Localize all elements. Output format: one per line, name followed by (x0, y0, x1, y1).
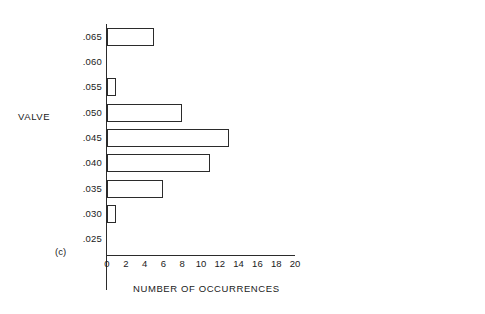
bar-065 (107, 28, 295, 46)
bar-025 (107, 230, 295, 248)
bar-rect (107, 180, 163, 198)
x-tick-label: 14 (233, 258, 244, 270)
bar-055 (107, 78, 295, 96)
x-tick-label: 6 (161, 258, 166, 270)
x-tick-label: 20 (290, 258, 301, 270)
bar-rect (107, 129, 229, 147)
y-tick-label: .050 (66, 108, 102, 118)
bar-045 (107, 129, 295, 147)
y-axis-tick-labels: .065.060.055.050.045.040.035.030.025 (62, 24, 102, 252)
y-tick-label: .045 (66, 133, 102, 143)
y-axis-title: VALVE (18, 111, 50, 122)
y-tick-label: .040 (66, 158, 102, 168)
bar-rect (107, 28, 154, 46)
chart-figure: VALVE (c) .065.060.055.050.045.040.035.0… (0, 0, 485, 314)
bar-030 (107, 205, 295, 223)
bar-rect (107, 104, 182, 122)
x-tick-label: 0 (104, 258, 109, 270)
x-axis-title: NUMBER OF OCCURRENCES (133, 283, 280, 294)
x-tick-label: 10 (196, 258, 207, 270)
bar-rect (107, 205, 116, 223)
bar-050 (107, 104, 295, 122)
bar-rect (107, 78, 116, 96)
x-tick-label: 4 (142, 258, 147, 270)
bar-040 (107, 154, 295, 172)
bar-060 (107, 53, 295, 71)
x-tick-label: 8 (180, 258, 185, 270)
x-tick-label: 18 (271, 258, 282, 270)
y-tick-label: .025 (66, 234, 102, 244)
plot-area (107, 24, 295, 252)
x-tick-label: 2 (123, 258, 128, 270)
x-axis-spine (107, 255, 295, 256)
y-tick-label: .055 (66, 82, 102, 92)
x-tick-label: 12 (215, 258, 226, 270)
bar-rect (107, 154, 210, 172)
bar-035 (107, 180, 295, 198)
y-tick-label: .035 (66, 184, 102, 194)
x-tick-label: 16 (252, 258, 263, 270)
y-tick-label: .065 (66, 32, 102, 42)
y-tick-label: .030 (66, 209, 102, 219)
x-axis-tick-labels: 02468101214161820 (107, 258, 295, 272)
y-tick-label: .060 (66, 57, 102, 67)
